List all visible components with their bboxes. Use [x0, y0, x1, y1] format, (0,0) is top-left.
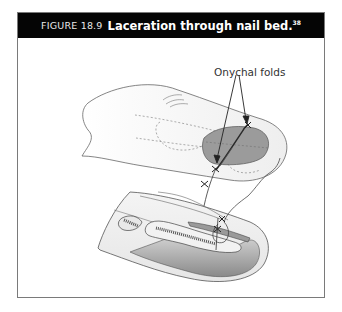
figure-number: FIGURE 18.9 — [41, 20, 103, 31]
figure-header: FIGURE 18.9 Laceration through nail bed.… — [18, 13, 324, 38]
figure-box: FIGURE 18.9 Laceration through nail bed.… — [17, 12, 325, 298]
callout-onychal-folds: Onychal folds — [214, 66, 285, 78]
nail-plate — [203, 126, 269, 164]
figure-title: Laceration through nail bed.38 — [108, 19, 301, 33]
figure-reference: 38 — [293, 19, 301, 26]
